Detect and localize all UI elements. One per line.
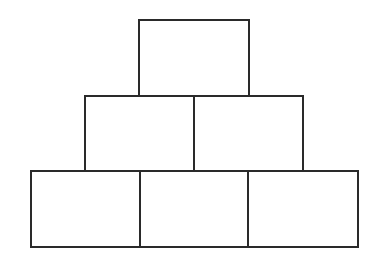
box-bottom-left: [31, 171, 140, 247]
box-middle-right: [194, 96, 303, 171]
box-top: [139, 20, 249, 96]
row-top: [139, 20, 249, 96]
pyramid-diagram: [0, 0, 382, 257]
row-bottom: [31, 171, 358, 247]
row-middle: [85, 96, 303, 171]
box-bottom-center: [140, 171, 248, 247]
box-middle-left: [85, 96, 194, 171]
box-bottom-right: [248, 171, 358, 247]
